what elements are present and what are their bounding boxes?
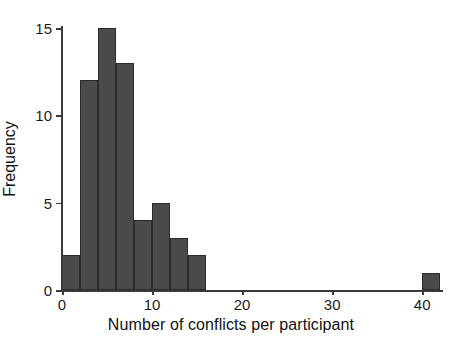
histogram-bar [170, 238, 188, 290]
y-tick-label: 15 [35, 20, 52, 37]
y-axis-line [61, 26, 63, 292]
y-tick-label: 5 [44, 194, 52, 211]
y-tick-label: 0 [44, 282, 52, 299]
y-tick-label: 10 [35, 107, 52, 124]
x-tick-label: 0 [58, 296, 66, 313]
histogram-bar [80, 80, 98, 290]
histogram-bar [422, 273, 440, 290]
x-axis-title: Number of conflicts per participant [0, 316, 462, 334]
x-axis-line [61, 290, 443, 292]
histogram-bar [98, 28, 116, 290]
y-tick-mark [56, 290, 61, 292]
histogram-bar [152, 203, 170, 290]
histogram-figure: 010203040 051015 Number of conflicts per… [0, 0, 462, 346]
y-tick-mark [56, 115, 61, 117]
x-tick-label: 30 [324, 296, 341, 313]
x-tick-label: 10 [144, 296, 161, 313]
x-tick-mark [62, 290, 64, 295]
plot-area [62, 28, 442, 290]
x-tick-label: 20 [234, 296, 251, 313]
histogram-bar [62, 255, 80, 290]
x-tick-mark [332, 290, 334, 295]
histogram-bar [188, 255, 206, 290]
y-tick-mark [56, 28, 61, 30]
x-tick-mark [422, 290, 424, 295]
y-tick-mark [56, 203, 61, 205]
histogram-bar [134, 220, 152, 290]
x-tick-mark [152, 290, 154, 295]
histogram-bar [116, 63, 134, 290]
y-axis-title: Frequency [1, 121, 19, 197]
x-tick-mark [242, 290, 244, 295]
x-tick-label: 40 [414, 296, 431, 313]
